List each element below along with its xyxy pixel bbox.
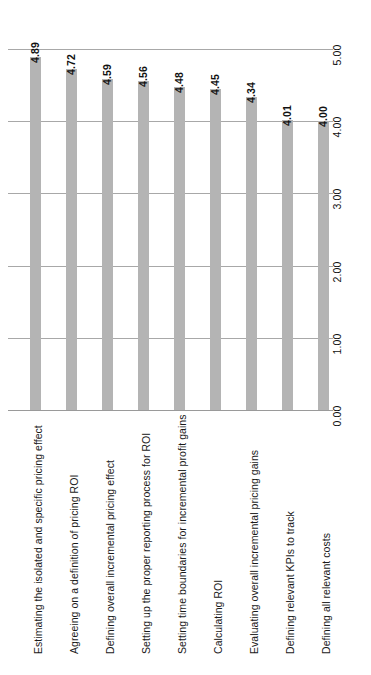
bar bbox=[138, 81, 149, 410]
bar-value-label: 4.45 bbox=[209, 74, 221, 95]
bar-value-label: 4.56 bbox=[137, 66, 149, 87]
axis-tick-label: 4.00 bbox=[331, 117, 343, 138]
bar bbox=[282, 120, 293, 410]
bar-value-label: 4.00 bbox=[317, 106, 329, 127]
axis-tick-label: 1.00 bbox=[331, 334, 343, 355]
bar-value-label: 4.01 bbox=[281, 106, 293, 127]
bar bbox=[174, 87, 185, 410]
category-label-text: Defining relevant KPIs to track bbox=[284, 511, 296, 654]
chart-figure: 4.894.724.594.564.484.454.344.014.00 0.0… bbox=[0, 0, 371, 675]
category-label: Estimating the isolated and specific pri… bbox=[32, 425, 44, 654]
category-label-text: Defining all relevant costs bbox=[320, 533, 332, 654]
bar-value-label: 4.48 bbox=[173, 72, 185, 93]
bar bbox=[30, 57, 41, 410]
bar bbox=[246, 97, 257, 410]
category-axis: Estimating the isolated and specific pri… bbox=[0, 412, 333, 657]
category-label: Setting up the proper reporting process … bbox=[140, 433, 152, 654]
category-label: Calculating ROI bbox=[212, 580, 224, 654]
category-label-text: Calculating ROI bbox=[212, 580, 224, 654]
category-label-text: Estimating the isolated and specific pri… bbox=[32, 425, 44, 654]
category-label-text: Setting up the proper reporting process … bbox=[140, 433, 152, 654]
category-label-text: Agreeing on a definition of pricing ROI bbox=[68, 475, 80, 654]
category-label: Agreeing on a definition of pricing ROI bbox=[68, 475, 80, 654]
category-label-text: Defining overall incremental pricing eff… bbox=[104, 460, 116, 654]
bar-value-label: 4.89 bbox=[29, 42, 41, 63]
bar bbox=[318, 121, 329, 410]
bar-value-label: 4.59 bbox=[101, 64, 113, 85]
axis-tick-label: 3.00 bbox=[331, 189, 343, 210]
bar bbox=[102, 79, 113, 410]
bar-value-label: 4.72 bbox=[65, 54, 77, 75]
cropped-caption-fragment bbox=[348, 618, 370, 674]
bar-value-label: 4.34 bbox=[245, 82, 257, 103]
category-label-text: Setting time boundaries for incremental … bbox=[176, 414, 188, 654]
axis-tick-label: 5.00 bbox=[331, 45, 343, 66]
value-axis: 0.001.002.003.004.005.00 bbox=[333, 49, 371, 410]
axis-tick-label: 2.00 bbox=[331, 262, 343, 283]
plot-area: 4.894.724.594.564.484.454.344.014.00 bbox=[8, 49, 333, 410]
bar bbox=[66, 69, 77, 410]
category-label: Evaluating overall incremental pricing g… bbox=[248, 450, 260, 654]
category-label: Setting time boundaries for incremental … bbox=[176, 414, 188, 654]
category-label: Defining all relevant costs bbox=[320, 533, 332, 654]
category-label: Defining overall incremental pricing eff… bbox=[104, 460, 116, 654]
category-label: Defining relevant KPIs to track bbox=[284, 511, 296, 654]
category-label-text: Evaluating overall incremental pricing g… bbox=[248, 450, 260, 654]
gridline-5.00 bbox=[8, 49, 333, 50]
gridline-0.00 bbox=[8, 410, 333, 411]
bar bbox=[210, 89, 221, 410]
